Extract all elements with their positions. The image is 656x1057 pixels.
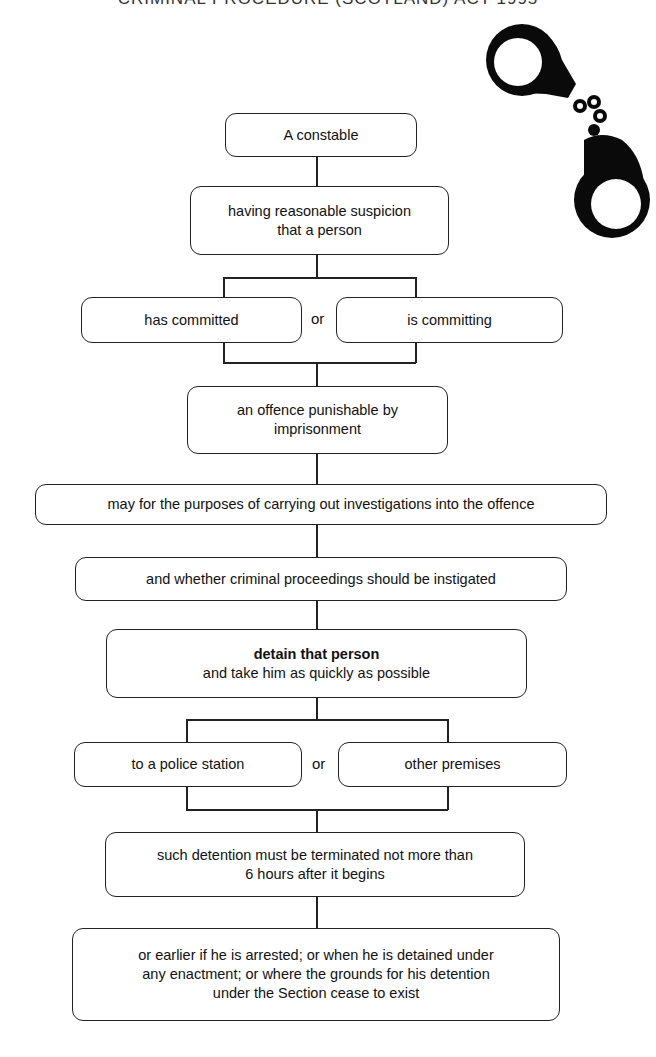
node-label: is committing <box>407 311 492 330</box>
bracket-left-top <box>186 719 188 742</box>
node-label-line1: or earlier if he is arrested; or when he… <box>138 946 493 965</box>
connector-line <box>316 698 318 719</box>
node-police-station: to a police station <box>74 742 302 787</box>
connector-line <box>316 454 318 484</box>
connector-line <box>316 363 318 386</box>
node-constable: A constable <box>225 113 417 157</box>
connector-line <box>316 255 318 277</box>
or-connector: or <box>312 755 325 772</box>
bracket-left-bottom <box>186 787 188 810</box>
bracket-bottom <box>223 362 416 364</box>
node-label-line2: any enactment; or where the grounds for … <box>142 965 489 984</box>
node-offence: an offence punishable by imprisonment <box>187 386 448 454</box>
node-is-committing: is committing <box>336 297 563 343</box>
node-label: and whether criminal proceedings should … <box>146 570 496 589</box>
connector-line <box>316 601 318 629</box>
connector-line <box>316 897 318 928</box>
node-label-line2: imprisonment <box>274 420 361 439</box>
node-other-premises: other premises <box>338 742 567 787</box>
node-label-line2: 6 hours after it begins <box>245 865 384 884</box>
node-exceptions: or earlier if he is arrested; or when he… <box>72 928 560 1021</box>
bracket-right-top <box>447 719 449 742</box>
clipped-header-title: CRIMINAL PROCEDURE (SCOTLAND) ACT 1995 <box>0 0 656 7</box>
node-label: other premises <box>405 755 501 774</box>
or-connector: or <box>311 310 324 327</box>
node-label: A constable <box>284 126 359 145</box>
node-label-line2: and take him as quickly as possible <box>203 664 430 683</box>
bracket-top <box>186 719 448 721</box>
node-label: may for the purposes of carrying out inv… <box>108 495 535 514</box>
bracket-top <box>223 277 416 279</box>
node-reasonable-suspicion: having reasonable suspicion that a perso… <box>190 186 449 255</box>
connector-line <box>316 810 318 833</box>
node-detain: detain that person and take him as quick… <box>106 629 527 698</box>
node-label: has committed <box>144 311 238 330</box>
handcuffs-icon <box>484 22 656 240</box>
node-termination: such detention must be terminated not mo… <box>105 832 525 897</box>
node-purpose: may for the purposes of carrying out inv… <box>35 484 607 525</box>
bracket-left-top <box>223 277 225 298</box>
bracket-left-bottom <box>223 342 225 363</box>
connector-line <box>316 157 318 186</box>
node-label-line1: an offence punishable by <box>237 401 398 420</box>
bracket-right-bottom <box>415 342 417 363</box>
node-label-line1: having reasonable suspicion <box>228 202 411 221</box>
node-label: to a police station <box>132 755 245 774</box>
node-proceedings: and whether criminal proceedings should … <box>75 557 567 601</box>
node-label-line3: under the Section cease to exist <box>213 984 419 1003</box>
node-label-line1: such detention must be terminated not mo… <box>157 846 473 865</box>
bracket-right-bottom <box>447 787 449 810</box>
connector-line <box>316 525 318 557</box>
bracket-right-top <box>415 277 417 298</box>
node-has-committed: has committed <box>81 297 302 343</box>
node-label-line2: that a person <box>277 221 362 240</box>
node-label-bold: detain that person <box>254 645 380 664</box>
